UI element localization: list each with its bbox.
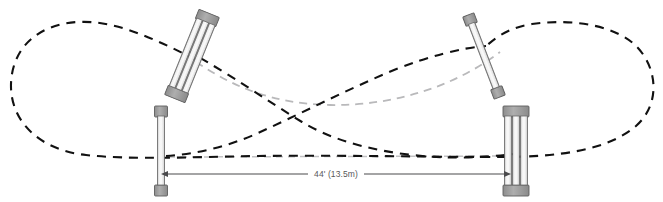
course-diagram: 44' (13.5m) [0,0,663,202]
standard-cap-bottom [503,185,529,196]
dimension-label: 44' (13.5m) [314,169,358,179]
standard-cap-top [155,106,168,117]
standard-cap-bottom [155,185,168,196]
bottom-right-standard[interactable] [503,106,529,196]
standard-pole-1 [505,116,512,185]
standard-pole-3 [521,116,528,185]
course-diagram-canvas: 44' (13.5m) [0,0,663,202]
top-right-standard[interactable] [463,13,506,99]
dimension-line: 44' (13.5m) [168,169,504,179]
standard-pole-1 [157,116,164,185]
bottom-left-standard[interactable] [155,106,168,196]
crossing-approach-line-right [166,46,486,156]
secondary-approach-path [196,52,500,105]
outer-track-loop [11,22,654,158]
top-left-standard[interactable] [165,9,220,103]
standard-cap-top [503,106,529,117]
standard-pole-2 [513,116,520,185]
standard-pole-1 [468,22,499,89]
